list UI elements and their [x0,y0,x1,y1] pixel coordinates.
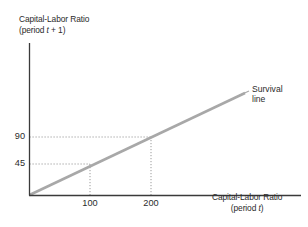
survival-line [30,93,246,195]
survival-line-annotation-line2: line [252,94,265,104]
figure-container: Capital-Labor Ratio (period t + 1) Capit… [0,0,308,227]
x-tick-label-200: 200 [134,198,168,208]
x-tick-label-100: 100 [73,198,107,208]
y-axis-label-line1: Capital-Labor Ratio [19,14,89,24]
x-axis-label-line2-post: ) [261,203,264,213]
survival-line-annotation: Survival line [252,84,283,105]
y-axis-label: Capital-Labor Ratio (period t + 1) [19,14,89,35]
x-axis-label: Capital-Labor Ratio (period t) [212,192,282,213]
y-axis-label-line2-pre: (period [19,25,47,35]
survival-line-annotation-line1: Survival [252,84,283,94]
x-axis-label-line2-pre: (period [231,203,259,213]
y-tick-label-90: 90 [5,131,25,141]
y-axis-label-line2-post: + 1) [49,25,66,35]
x-axis-label-line1: Capital-Labor Ratio [212,192,282,202]
y-tick-label-45: 45 [5,158,25,168]
annotation-leader [238,91,249,96]
